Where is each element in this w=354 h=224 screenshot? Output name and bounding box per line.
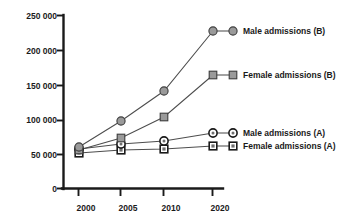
legend-marker-male-admissions-b <box>229 27 237 35</box>
marker-core-female-a-2010 <box>162 147 165 150</box>
series-line-male-admissions-a <box>79 133 213 149</box>
y-tick-label-200000: 200 000 <box>26 46 57 56</box>
marker-female-admissions-b-2010 <box>160 113 168 121</box>
marker-male-admissions-b-2020 <box>209 27 217 35</box>
marker-core-male-a-2020 <box>212 132 215 135</box>
marker-male-admissions-b-2005 <box>117 117 125 125</box>
y-tick-label-50000: 50 000 <box>31 150 57 160</box>
y-tick-label-100000: 100 000 <box>26 115 57 125</box>
marker-core-female-a-2020 <box>211 144 214 147</box>
y-tick-label-0: 0 <box>52 184 57 194</box>
line-chart: 250 000 200 000 150 000 100 000 50 000 0… <box>0 0 354 224</box>
marker-core-male-a-2010 <box>163 140 166 143</box>
marker-male-admissions-b-2010 <box>160 87 168 95</box>
series-label-male-admissions-a: Male admissions (A) <box>243 128 325 138</box>
series-label-female-admissions-a: Female admissions (A) <box>243 141 336 151</box>
x-tick-label-2020: 2020 <box>211 203 230 213</box>
series-line-female-admissions-b <box>79 75 213 150</box>
marker-female-admissions-b-2005 <box>117 134 125 142</box>
series-line-male-admissions-b <box>79 31 213 147</box>
series-label-female-admissions-b: Female admissions (B) <box>243 70 336 80</box>
x-tick-label-2010: 2010 <box>162 203 181 213</box>
legend-marker-core-female-a <box>231 144 234 147</box>
legend-marker-core-male-a <box>232 132 235 135</box>
y-tick-label-150000: 150 000 <box>26 81 57 91</box>
marker-male-admissions-b-2000 <box>75 143 83 151</box>
series-label-male-admissions-b: Male admissions (B) <box>243 26 325 36</box>
chart-canvas: 250 000 200 000 150 000 100 000 50 000 0… <box>0 0 354 224</box>
marker-female-admissions-b-2020 <box>209 71 217 79</box>
x-tick-label-2000: 2000 <box>77 203 96 213</box>
marker-core-male-a-2005 <box>120 143 123 146</box>
x-tick-label-2005: 2005 <box>119 203 138 213</box>
legend-marker-female-admissions-b <box>229 71 237 79</box>
y-tick-label-250000: 250 000 <box>26 11 57 21</box>
